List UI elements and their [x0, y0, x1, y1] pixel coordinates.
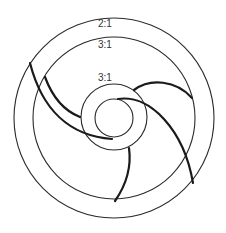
- labels-group: 2:13:13:1: [98, 18, 112, 83]
- impeller-diagram: 2:13:13:1: [0, 0, 226, 233]
- outer-ring: [14, 18, 214, 218]
- middle-ring: [81, 84, 147, 150]
- second-ratio-label: 3:1: [98, 39, 112, 50]
- middle-ratio-label: 3:1: [98, 72, 112, 83]
- blade-3: [134, 82, 192, 98]
- second-ring: [33, 37, 195, 199]
- diagram-svg: 2:13:13:1: [0, 0, 226, 233]
- rings-group: [14, 18, 214, 218]
- blade-2: [45, 77, 80, 117]
- outer-ratio-label: 2:1: [98, 18, 112, 29]
- inner-ring: [95, 99, 133, 137]
- blade-5: [115, 148, 130, 201]
